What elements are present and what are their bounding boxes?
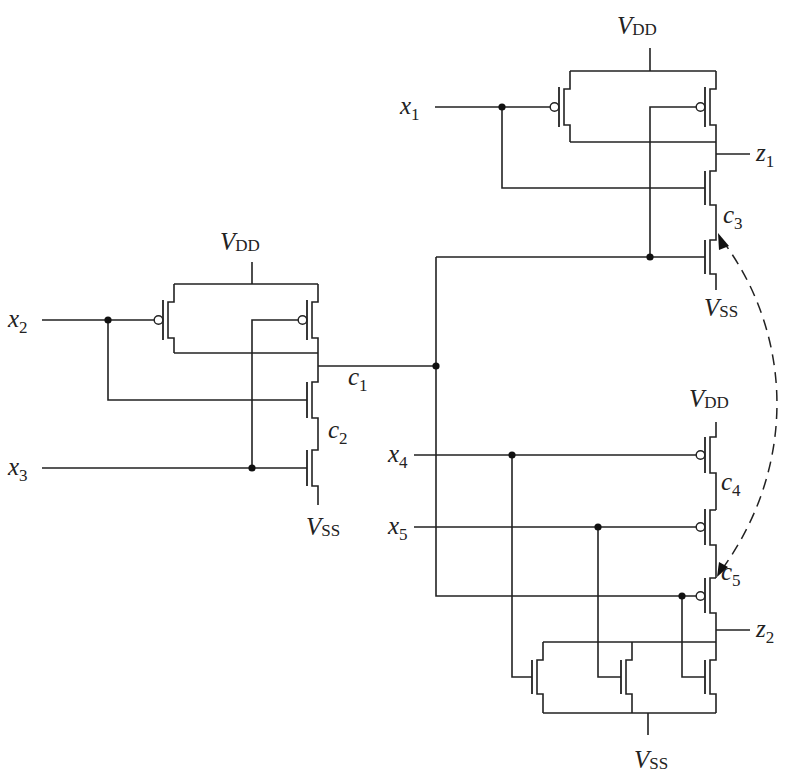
- junction-dot: [248, 464, 255, 471]
- x1-wire: [435, 107, 705, 188]
- c4-label: c4: [721, 468, 741, 500]
- x4-label: x4: [387, 440, 408, 472]
- nmos-x2-body: [312, 366, 318, 434]
- nmos-c1-body-c: [710, 642, 716, 713]
- x3-label: x3: [7, 453, 28, 485]
- x2-wire: [42, 320, 307, 400]
- nmos-c1-body: [710, 226, 716, 290]
- z2-label: z2: [755, 615, 774, 647]
- pmos-c1-body-c: [710, 578, 716, 642]
- x5-wire: [414, 527, 696, 677]
- junction-dot: [498, 103, 505, 110]
- c1-bus: [436, 257, 696, 596]
- gate-nor-x4-x5-c1: [414, 422, 750, 735]
- vss-label-b: VSS: [704, 294, 738, 321]
- nmos-x1-body: [710, 154, 716, 226]
- vss-label-a: VSS: [306, 513, 340, 540]
- vss-label-c: VSS: [634, 746, 668, 773]
- pmos-x2-body: [168, 284, 174, 353]
- junction-dot: [104, 316, 111, 323]
- nmos-x5-body: [626, 642, 632, 713]
- pmos-x4-body: [710, 422, 716, 510]
- c3-label: c3: [723, 201, 743, 233]
- pmos-bubble-icon: [696, 592, 705, 601]
- vdd-label-b: VDD: [617, 12, 657, 39]
- gate-nand-x2-x3: [42, 262, 436, 505]
- x2-label: x2: [7, 305, 28, 337]
- nmos-x4-body: [537, 642, 543, 713]
- pmos-bubble-icon: [154, 316, 163, 325]
- pmos-x5-body: [710, 510, 716, 578]
- pmos-x1-body: [564, 71, 570, 142]
- c1-label: c1: [348, 363, 368, 395]
- vdd-rail-b: [570, 48, 716, 71]
- c2-label: c2: [328, 416, 348, 448]
- nmos-x3-body: [312, 434, 318, 505]
- pmos-bubble-icon: [696, 451, 705, 460]
- schematic-svg: VDD VDD VDD VSS VSS VSS x1 x2 x3 x4 x5 z…: [0, 0, 795, 782]
- vdd-label-a: VDD: [220, 228, 260, 255]
- circuit-diagram: VDD VDD VDD VSS VSS VSS x1 x2 x3 x4 x5 z…: [0, 0, 795, 782]
- x4-wire: [414, 455, 696, 677]
- gate-nand-x1-c1: [435, 48, 750, 290]
- pmos-bubble-icon: [696, 523, 705, 532]
- junction-dot: [678, 592, 685, 599]
- junction-dot: [508, 451, 515, 458]
- vdd-label-c: VDD: [689, 385, 729, 412]
- pmos-bubble-icon: [696, 103, 705, 112]
- dashed-coupling-arrow: [722, 240, 777, 568]
- x5-label: x5: [387, 512, 408, 544]
- junction-dot: [646, 253, 653, 260]
- c1-wire-c: [682, 596, 705, 677]
- pmos-bubble-icon: [298, 316, 307, 325]
- vdd-rail-a: [174, 262, 318, 284]
- c5-label: c5: [721, 558, 741, 590]
- z1-label: z1: [755, 139, 774, 171]
- junction-dot: [432, 362, 439, 369]
- nmos-bottom-rail: [543, 713, 716, 735]
- x1-label: x1: [399, 92, 420, 124]
- pmos-bubble-icon: [550, 103, 559, 112]
- junction-dot: [594, 523, 601, 530]
